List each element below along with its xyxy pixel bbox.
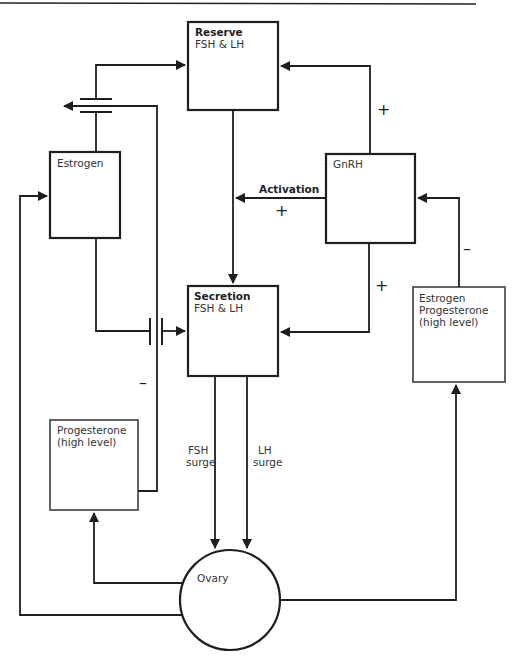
ovary-label: Ovary (197, 572, 228, 584)
fsh-surge-label-1: FSH (188, 444, 208, 456)
estrogen-to-secretion-arrow (96, 238, 150, 331)
feedback-to-gnrh-arrow (418, 198, 459, 287)
secretion-subtitle: FSH & LH (194, 302, 243, 314)
ep-line2: Progesterone (419, 304, 488, 316)
ep-line3: (high level) (419, 316, 478, 328)
progesterone-line2: (high level) (57, 436, 116, 448)
ep-line1: Estrogen (419, 292, 466, 304)
progesterone-line1: Progesterone (57, 424, 126, 436)
ovary-to-ep-arrow (280, 385, 456, 600)
gnrh-secretion-plus-sign: + (375, 276, 388, 295)
activation-plus-sign: + (275, 201, 288, 220)
lh-surge-label-1: LH (258, 444, 272, 456)
gnrh-reserve-plus-sign: + (377, 100, 390, 119)
gnrh-to-reserve-arrow (281, 66, 370, 154)
hormone-regulation-diagram: Reserve FSH & LH Estrogen GnRH Secretion… (0, 0, 518, 664)
gnrh-label: GnRH (333, 158, 363, 170)
ovary-to-progesterone-arrow (94, 513, 182, 583)
reserve-title: Reserve (195, 26, 243, 38)
estrogen-label: Estrogen (57, 157, 104, 169)
secretion-title: Secretion (194, 290, 251, 302)
gnrh-to-secretion-arrow (281, 243, 369, 332)
reserve-subtitle: FSH & LH (195, 38, 244, 50)
progesterone-minus-sign: – (139, 373, 147, 392)
page-top-rule (0, 3, 476, 4)
ovary-circle (180, 550, 280, 650)
feedback-minus-sign: – (463, 239, 471, 258)
lh-surge-label-2: surge (253, 456, 282, 468)
fsh-surge-label-2: surge (186, 456, 215, 468)
activation-label: Activation (259, 183, 319, 195)
